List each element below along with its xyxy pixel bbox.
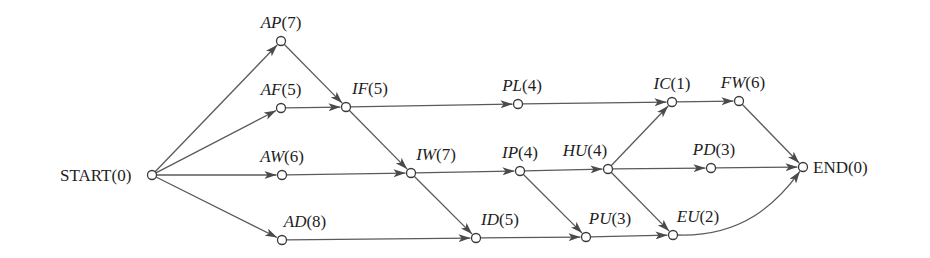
edge-start-to-af (156, 111, 276, 173)
edge-start-to-ad (156, 177, 277, 238)
edge-if-to-iw (349, 110, 407, 169)
edge-ip-to-pu (523, 174, 582, 233)
activity-name: AF (260, 80, 282, 99)
node-label-id: ID(5) (480, 210, 519, 229)
activity-name: HU (562, 141, 589, 160)
activity-duration: (4) (522, 76, 542, 95)
node-if (342, 103, 351, 112)
activity-name: IF (351, 79, 369, 98)
node-hu (604, 165, 613, 174)
edge-ic-to-fw (676, 101, 733, 102)
node-label-eu: EU(2) (676, 207, 720, 226)
activity-duration: (7) (436, 145, 456, 164)
node-pu (582, 233, 591, 242)
activity-name: PL (501, 76, 522, 95)
activity-duration: (5) (281, 80, 301, 99)
activity-name: FW (720, 73, 747, 92)
activity-network-diagram: START(0)AP(7)AF(5)AW(6)AD(8)IF(5)PL(4)IW… (0, 0, 930, 258)
activity-duration: (3) (715, 140, 735, 159)
activity-name: IW (415, 145, 438, 164)
edge-if-to-pl (350, 104, 512, 107)
node-pl (514, 100, 523, 109)
edge-af-to-if (285, 107, 340, 108)
node-label-start: START(0) (60, 166, 131, 185)
activity-duration: (5) (368, 79, 388, 98)
activity-duration: (4) (518, 143, 538, 162)
activity-duration: (8) (306, 212, 326, 231)
edge-fw-to-end (742, 104, 799, 163)
activity-duration: (6) (284, 147, 304, 166)
edge-start-to-ap (155, 45, 277, 172)
activity-name: END (813, 158, 848, 177)
node-fw (735, 97, 744, 106)
activity-name: START (60, 166, 112, 185)
edge-pl-to-ic (522, 102, 666, 104)
node-ad (278, 236, 287, 245)
activity-name: PD (692, 140, 716, 159)
edge-pd-to-end (715, 167, 797, 168)
activity-name: AD (283, 212, 307, 231)
node-label-if: IF(5) (351, 79, 388, 98)
node-label-ap: AP(7) (260, 13, 302, 32)
node-label-ip: IP(4) (501, 143, 538, 162)
labels-layer: START(0)AP(7)AF(5)AW(6)AD(8)IF(5)PL(4)IW… (60, 13, 868, 231)
node-label-pd: PD(3) (692, 140, 736, 159)
node-label-hu: HU(4) (562, 141, 607, 160)
edge-hu-to-pd (612, 168, 705, 169)
node-ip (516, 167, 525, 176)
activity-duration: (4) (587, 141, 607, 160)
edge-hu-to-ic (611, 106, 668, 166)
activity-duration: (6) (745, 73, 765, 92)
activity-duration: (3) (611, 209, 631, 228)
node-label-pl: PL(4) (501, 76, 542, 95)
node-aw (278, 171, 287, 180)
node-label-fw: FW(6) (720, 73, 765, 92)
activity-name: IP (501, 143, 518, 162)
edge-aw-to-iw (286, 173, 405, 175)
edge-id-to-pu (480, 237, 580, 238)
edge-ip-to-hu (524, 169, 602, 171)
activity-name: ID (480, 210, 500, 229)
node-ap (277, 37, 286, 46)
edge-iw-to-ip (415, 171, 514, 173)
activity-duration: (0) (111, 166, 131, 185)
activity-name: EU (676, 207, 701, 226)
node-label-pu: PU(3) (588, 209, 632, 228)
node-label-af: AF(5) (260, 80, 302, 99)
node-eu (669, 231, 678, 240)
edge-iw-to-id (414, 176, 472, 234)
edge-pu-to-eu (590, 235, 667, 237)
activity-duration: (1) (671, 74, 691, 93)
activity-duration: (0) (848, 158, 868, 177)
node-af (277, 104, 286, 113)
node-label-aw: AW(6) (259, 147, 304, 166)
node-end (799, 163, 808, 172)
activity-name: AP (260, 13, 282, 32)
node-label-iw: IW(7) (415, 145, 456, 164)
node-id (472, 234, 481, 243)
node-label-ad: AD(8) (283, 212, 327, 231)
activity-name: AW (259, 147, 286, 166)
node-pd (707, 164, 716, 173)
node-iw (407, 169, 416, 178)
node-label-end: END(0) (813, 158, 868, 177)
activity-name: PU (588, 209, 613, 228)
node-label-ic: IC(1) (653, 74, 691, 93)
activity-duration: (7) (281, 13, 301, 32)
activity-duration: (2) (699, 207, 719, 226)
activity-duration: (5) (499, 210, 519, 229)
edge-ad-to-id (286, 238, 470, 240)
activity-name: IC (653, 74, 672, 93)
node-start (148, 171, 157, 180)
node-ic (668, 98, 677, 107)
